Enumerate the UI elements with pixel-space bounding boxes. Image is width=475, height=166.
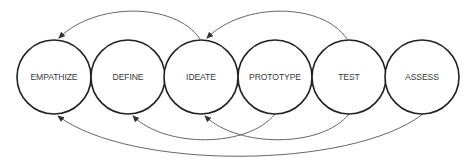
stage-label: TEST [338, 72, 360, 82]
stage-ideate: IDEATE [164, 40, 238, 114]
stage-label: ASSESS [405, 72, 439, 82]
stage-label: PROTOTYPE [249, 72, 301, 82]
stage-label: EMPATHIZE [30, 72, 77, 82]
stage-label: IDEATE [186, 72, 216, 82]
stage-test: TEST [312, 40, 386, 114]
stages: EMPATHIZEDEFINEIDEATEPROTOTYPETESTASSESS [17, 40, 459, 114]
stage-empathize: EMPATHIZE [17, 40, 91, 114]
stage-prototype: PROTOTYPE [238, 40, 312, 114]
arrow-test-to-ideate-top [207, 11, 347, 39]
stage-label: DEFINE [113, 72, 144, 82]
stage-assess: ASSESS [385, 40, 459, 114]
design-thinking-diagram: EMPATHIZEDEFINEIDEATEPROTOTYPETESTASSESS [0, 0, 475, 166]
stage-define: DEFINE [91, 40, 165, 114]
arrow-ideate-to-empathize-top [59, 11, 200, 39]
arrow-prototype-to-define-bottom [133, 114, 275, 140]
arrow-test-to-ideate-bottom [205, 114, 349, 140]
